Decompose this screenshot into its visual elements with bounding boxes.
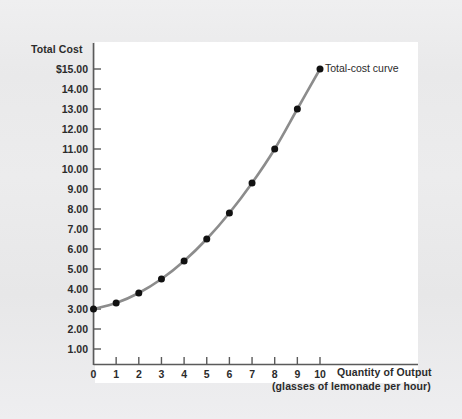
data-point bbox=[249, 180, 256, 187]
y-axis-tick-labels: $15.0014.0013.0012.0011.0010.009.008.007… bbox=[14, 0, 88, 419]
series-total-cost-curve bbox=[90, 66, 324, 313]
x-axis-ticks bbox=[116, 357, 320, 365]
y-axis-title: Total Cost bbox=[31, 43, 83, 55]
data-point bbox=[90, 306, 97, 313]
y-axis-tick-label: 9.00 bbox=[68, 183, 88, 195]
x-axis-subtitle: (glasses of lemonade per hour) bbox=[272, 380, 431, 392]
x-axis-tick-label: 4 bbox=[181, 368, 187, 380]
data-point bbox=[158, 276, 165, 283]
total-cost-curve-label: Total-cost curve bbox=[325, 62, 399, 74]
x-axis-title: Quantity of Output bbox=[337, 366, 432, 378]
y-axis-tick-label: 4.00 bbox=[68, 283, 88, 295]
y-axis-tick-label: 14.00 bbox=[62, 83, 88, 95]
total-cost-chart: $15.0014.0013.0012.0011.0010.009.008.007… bbox=[0, 0, 462, 419]
x-axis-tick-label: 0 bbox=[91, 368, 97, 380]
y-axis-tick-label: 2.00 bbox=[68, 323, 88, 335]
y-axis-tick-label: 8.00 bbox=[68, 203, 88, 215]
y-axis-tick-label: 1.00 bbox=[68, 343, 88, 355]
data-point bbox=[271, 146, 278, 153]
x-axis-tick-label: 10 bbox=[314, 368, 326, 380]
total-cost-curve-line bbox=[94, 69, 321, 309]
x-axis-tick-label: 1 bbox=[113, 368, 119, 380]
axes bbox=[94, 43, 419, 365]
data-point bbox=[294, 106, 301, 113]
y-axis-tick-label: 7.00 bbox=[68, 223, 88, 235]
x-axis-tick-label: 6 bbox=[226, 368, 232, 380]
data-point bbox=[203, 236, 210, 243]
y-axis-tick-label: 3.00 bbox=[68, 303, 88, 315]
x-axis-tick-label: 3 bbox=[159, 368, 165, 380]
y-axis-tick-label: 12.00 bbox=[62, 123, 88, 135]
data-point bbox=[113, 300, 120, 307]
total-cost-curve-markers bbox=[90, 66, 324, 313]
y-axis-tick-label: 5.00 bbox=[68, 263, 88, 275]
x-axis-tick-label: 5 bbox=[204, 368, 210, 380]
y-axis-tick-label: 10.00 bbox=[62, 163, 88, 175]
x-axis-tick-label: 9 bbox=[294, 368, 300, 380]
y-axis-tick-label: 6.00 bbox=[68, 243, 88, 255]
data-point bbox=[135, 290, 142, 297]
x-axis-tick-label: 8 bbox=[272, 368, 278, 380]
data-point bbox=[226, 210, 233, 217]
x-axis-tick-label: 2 bbox=[136, 368, 142, 380]
y-axis-tick-label: 11.00 bbox=[62, 143, 88, 155]
y-axis-tick-label: 13.00 bbox=[62, 103, 88, 115]
y-axis-tick-label: $15.00 bbox=[56, 63, 88, 75]
x-axis-tick-label: 7 bbox=[249, 368, 255, 380]
data-point bbox=[181, 258, 188, 265]
data-point bbox=[317, 66, 324, 73]
